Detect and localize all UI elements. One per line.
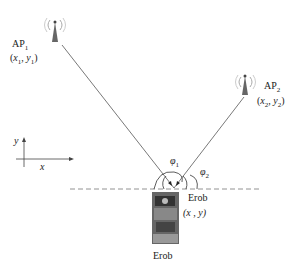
diagram-canvas: AP1 (x1, y1) AP2 (x2, y2) y x φ1 φ2 Erob… (0, 0, 298, 269)
ap1-label: AP1 (12, 38, 28, 52)
angle-arc-phi1 (163, 176, 166, 189)
antenna-icon-ap1 (45, 18, 66, 42)
antenna-icon-ap2 (236, 75, 256, 96)
robot-image (152, 192, 179, 244)
diagram-graphics (0, 0, 298, 269)
x-axis-label: x (40, 161, 44, 172)
signal-line-ap1 (62, 45, 174, 188)
robot-coordinates: (x , y) (183, 207, 206, 218)
ap2-label: AP2 (264, 80, 280, 94)
robot-label: Erob (188, 192, 207, 203)
ap1-coordinates: (x1, y1) (10, 52, 38, 66)
ap2-coordinates: (x2, y2) (257, 95, 285, 109)
y-axis-label: y (14, 135, 18, 146)
angle-arc-phi2 (183, 176, 187, 189)
angle-label-phi2: φ2 (200, 166, 209, 180)
robot-caption: Erob (153, 250, 172, 261)
angle-label-phi1: φ1 (170, 155, 179, 169)
